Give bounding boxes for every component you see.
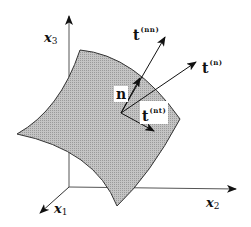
x2-axis <box>69 187 236 189</box>
x3-symbol: x <box>44 30 52 45</box>
tangential-component-symbol: t <box>142 108 148 124</box>
x1-subscript: 1 <box>62 207 68 217</box>
normal-component-label: t(nn) <box>133 26 159 42</box>
traction-label: t(n) <box>202 59 223 75</box>
diagram-graphic <box>0 0 251 227</box>
traction-superscript: (n) <box>209 58 222 67</box>
normal-component-superscript: (nn) <box>140 25 159 34</box>
normal-component-symbol: t <box>133 27 139 43</box>
x3-axis-label: x3 <box>44 31 58 46</box>
traction-diagram: x3 x1 x2 n t(nn) t(n) t(nt) <box>0 0 251 227</box>
x2-subscript: 2 <box>214 201 220 211</box>
x3-subscript: 3 <box>52 36 58 46</box>
x2-symbol: x <box>206 195 214 210</box>
x2-axis-label: x2 <box>206 196 220 211</box>
tangential-component-superscript: (nt) <box>149 106 166 115</box>
normal-symbol: n <box>116 86 126 102</box>
tangential-component-label: t(nt) <box>140 101 168 124</box>
traction-symbol: t <box>202 60 208 76</box>
x1-symbol: x <box>54 201 62 216</box>
normal-label: n <box>114 86 128 102</box>
surface-patch <box>17 50 180 206</box>
x1-axis-label: x1 <box>54 202 68 217</box>
